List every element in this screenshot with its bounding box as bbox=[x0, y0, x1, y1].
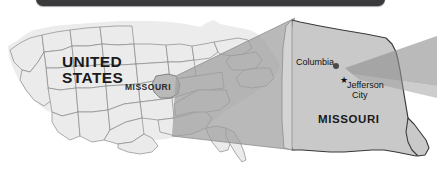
city-label-jefferson-city-line1: Jefferson bbox=[347, 80, 384, 90]
overview-state-label: MISSOURI bbox=[125, 82, 171, 92]
city-label-columbia: Columbia bbox=[296, 57, 334, 67]
dark-rounded-bar bbox=[36, 0, 385, 6]
country-label-line2: STATES bbox=[62, 70, 123, 85]
city-label-jefferson-city-line2: City bbox=[352, 90, 368, 100]
map-figure: UNITED STATES MISSOURI Columbia ★ Jeffer… bbox=[0, 0, 437, 173]
dot-marker bbox=[333, 63, 339, 69]
country-label-line1: UNITED bbox=[62, 54, 122, 69]
detail-state-label: MISSOURI bbox=[318, 113, 380, 125]
